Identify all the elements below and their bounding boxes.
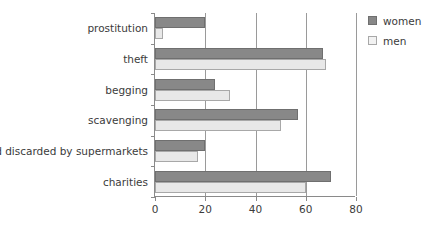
gridline-80 [356, 13, 357, 196]
y-tick-1 [151, 44, 155, 45]
plot-area: 020406080 [154, 13, 355, 197]
x-tick-label-80: 80 [349, 203, 362, 215]
x-tick-label-60: 60 [299, 203, 312, 215]
y-tick-0 [151, 13, 155, 14]
bar-men-begging [155, 90, 230, 101]
bar-women-prostitution [155, 17, 205, 28]
legend-label-men: men [383, 35, 406, 47]
x-tick-80 [356, 197, 357, 201]
y-tick-5 [151, 166, 155, 167]
legend-entry-men: men [368, 33, 421, 48]
y-tick-3 [151, 105, 155, 106]
gridline-60 [306, 13, 307, 196]
x-tick-0 [155, 197, 156, 201]
bar-men-food-discarded-by-supermarkets [155, 151, 198, 162]
category-label-prostitution: prostitution [87, 22, 148, 34]
bar-women-charities [155, 171, 331, 182]
category-label-theft: theft [123, 53, 148, 65]
x-tick-40 [256, 197, 257, 201]
category-label-charities: charities [103, 176, 148, 188]
bar-women-food-discarded-by-supermarkets [155, 140, 205, 151]
bar-women-begging [155, 79, 215, 90]
legend-entry-women: women [368, 13, 421, 28]
category-label-food-discarded-by-supermarkets: food discarded by supermarkets [0, 145, 148, 157]
x-tick-20 [205, 197, 206, 201]
category-label-scavenging: scavenging [88, 114, 148, 126]
legend: women men [368, 13, 421, 53]
legend-label-women: women [383, 15, 421, 27]
bar-chart: 020406080 prostitutiontheftbeggingscaven… [0, 0, 440, 236]
x-tick-60 [306, 197, 307, 201]
bar-women-scavenging [155, 109, 298, 120]
x-tick-label-40: 40 [249, 203, 262, 215]
gridline-40 [256, 13, 257, 196]
bar-men-charities [155, 182, 306, 193]
gridline-20 [205, 13, 206, 196]
bar-women-theft [155, 48, 323, 59]
x-tick-label-20: 20 [199, 203, 212, 215]
y-tick-2 [151, 74, 155, 75]
bar-men-theft [155, 59, 326, 70]
y-tick-4 [151, 136, 155, 137]
category-label-begging: begging [105, 84, 148, 96]
x-tick-label-0: 0 [152, 203, 159, 215]
bar-men-scavenging [155, 120, 281, 131]
bar-men-prostitution [155, 28, 163, 39]
legend-swatch-women-icon [368, 16, 377, 25]
legend-swatch-men-icon [368, 36, 377, 45]
